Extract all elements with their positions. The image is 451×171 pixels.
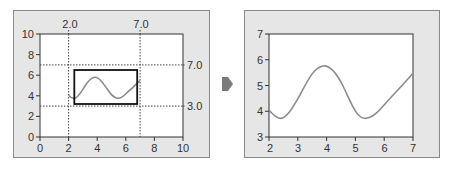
x-tick-label: 3: [295, 142, 301, 154]
x-tick-label: 2: [66, 142, 72, 154]
y-tick-label: 7: [257, 28, 263, 40]
y-guide-label-top: 7.0: [187, 59, 202, 71]
x-tick-label: 0: [37, 142, 43, 154]
y-tick-label: 5: [257, 80, 263, 92]
arrow-right-icon: [222, 77, 233, 91]
y-tick-label: 4: [257, 105, 263, 117]
overview-plot-area: [40, 34, 183, 137]
y-tick-label: 3: [257, 131, 263, 143]
x-tick-label: 10: [177, 142, 189, 154]
y-guide-label-bottom: 3.0: [187, 100, 202, 112]
x-tick-label: 4: [324, 142, 330, 154]
overview-y-ticks: [36, 34, 40, 137]
y-tick-label: 6: [257, 54, 263, 66]
overview-x-ticks: [40, 137, 183, 141]
x-guide-label-start: 2.0: [62, 18, 77, 30]
overview-x-tick-labels: 0 2 4 6 8 10: [37, 142, 189, 154]
charts-svg: 0 2 4 6 8 10 0 2 4 6 8 10 2.0 7.0 7.0 3.…: [0, 0, 451, 171]
x-tick-label: 8: [151, 142, 157, 154]
y-tick-label: 6: [28, 69, 34, 81]
x-tick-label: 5: [352, 142, 358, 154]
zoomed-x-tick-labels: 2 3 4 5 6 7: [267, 142, 416, 154]
y-tick-label: 0: [28, 131, 34, 143]
zoomed-y-tick-labels: 3 4 5 6 7: [257, 28, 263, 143]
overview-y-tick-labels: 0 2 4 6 8 10: [22, 28, 34, 143]
y-tick-label: 8: [28, 49, 34, 61]
y-tick-label: 10: [22, 28, 34, 40]
y-tick-label: 4: [28, 90, 34, 102]
x-tick-label: 6: [123, 142, 129, 154]
y-tick-label: 2: [28, 110, 34, 122]
zoomed-plot-area: [269, 34, 413, 137]
x-tick-label: 2: [267, 142, 273, 154]
x-tick-label: 6: [381, 142, 387, 154]
x-guide-label-end: 7.0: [133, 18, 148, 30]
x-tick-label: 7: [410, 142, 416, 154]
zoomed-x-ticks: [269, 137, 413, 141]
zoomed-y-ticks: [265, 34, 269, 137]
x-tick-label: 4: [94, 142, 100, 154]
